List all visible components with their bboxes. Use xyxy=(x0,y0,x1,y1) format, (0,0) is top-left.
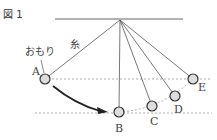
point-label-B: B xyxy=(115,123,123,134)
point-label-C: C xyxy=(150,116,158,127)
bob-B xyxy=(114,107,124,117)
bob-E xyxy=(188,74,198,84)
bob-D xyxy=(170,91,180,101)
string-to-A xyxy=(45,20,120,79)
weight-label: おもり xyxy=(25,47,55,57)
arrowhead-icon xyxy=(97,107,108,114)
bob-A xyxy=(40,74,50,84)
motion-arrow xyxy=(53,86,100,111)
point-label-A: A xyxy=(32,66,40,77)
string-to-B xyxy=(119,20,120,112)
bob-C xyxy=(147,101,157,111)
point-label-E: E xyxy=(198,82,206,93)
point-label-D: D xyxy=(174,104,183,115)
string-label: 糸 xyxy=(70,40,80,50)
weight-leader-line xyxy=(41,60,44,73)
